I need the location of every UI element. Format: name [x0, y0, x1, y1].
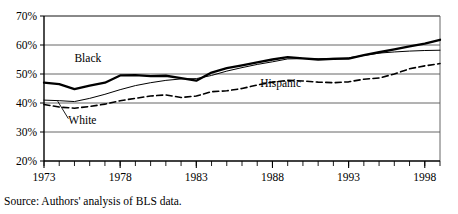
x-tick-label: 1973 — [33, 171, 56, 183]
series-line-black — [44, 40, 440, 89]
x-tick-label: 1998 — [413, 171, 436, 183]
source-note: Source: Authors' analysis of BLS data. — [4, 195, 182, 207]
series-line-hispanic — [44, 64, 440, 109]
y-tick-label: 30% — [16, 126, 38, 138]
series-label-hispanic: Hispanic — [260, 77, 301, 90]
x-tick-label: 1988 — [261, 171, 284, 183]
series-line-white — [44, 50, 440, 101]
x-tick-label: 1978 — [109, 171, 132, 183]
x-tick-label: 1993 — [337, 171, 360, 183]
y-tick-label: 60% — [16, 39, 38, 51]
line-chart: 20%30%40%50%60%70%1973197819831988199319… — [0, 0, 458, 190]
y-tick-label: 20% — [16, 155, 38, 167]
series-label-white: White — [68, 114, 96, 126]
y-tick-label: 50% — [16, 68, 38, 80]
y-tick-label: 70% — [16, 10, 38, 22]
x-tick-label: 1983 — [185, 171, 208, 183]
chart-figure: 20%30%40%50%60%70%1973197819831988199319… — [0, 0, 458, 214]
series-label-black: Black — [74, 52, 101, 64]
leader-line-white — [58, 101, 69, 118]
y-tick-label: 40% — [16, 97, 38, 109]
